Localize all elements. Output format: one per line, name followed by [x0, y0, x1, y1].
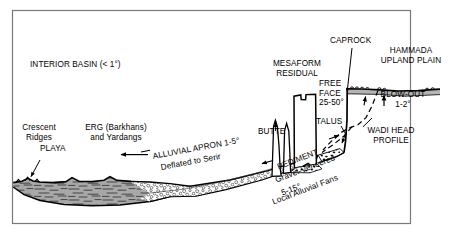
caprock-leader: [348, 48, 352, 88]
label-mesaform-line1: MESAFORM: [264, 59, 330, 69]
label-butte: BUTTE: [258, 127, 285, 137]
label-crescent-ridges-line1: Crescent: [12, 123, 66, 133]
crescent-ridges-leader: [31, 160, 40, 177]
blow-out-arrow-left: [364, 97, 366, 106]
label-hammada-line1: HAMMADA: [372, 46, 450, 56]
label-wadi-head-line2: PROFILE: [358, 136, 424, 146]
caprock-leader-dot: [346, 88, 349, 91]
label-free-face-line2: FACE: [319, 89, 341, 99]
label-blow-out-line1: BLOW-OUT: [372, 90, 434, 100]
label-interior-basin: INTERIOR BASIN (< 1°): [30, 60, 121, 70]
label-blow-out-slope: 1-2°: [372, 100, 434, 110]
desert-landform-diagram: INTERIOR BASIN (< 1°) Crescent Ridges PL…: [0, 0, 455, 234]
label-hammada-line2: UPLAND PLAIN: [366, 56, 455, 66]
label-free-face-slope: 25-50°: [319, 98, 344, 108]
label-wadi-head-line1: WADI HEAD: [358, 126, 424, 136]
label-mesaform-line2: RESIDUAL: [264, 69, 330, 79]
pediment-arrow-left: [262, 161, 272, 164]
label-erg-line2: and Yardangs: [70, 133, 162, 143]
label-caprock: CAPROCK: [330, 36, 371, 46]
pediment-arrow-right: [329, 135, 339, 139]
label-erg-line1: ERG (Barkhans): [70, 123, 162, 133]
alluvial-apron-tick: [141, 150, 150, 152]
label-free-face-line1: FREE: [319, 79, 341, 89]
label-playa: PLAYA: [40, 144, 66, 154]
label-talus: TALUS: [316, 117, 342, 127]
label-crescent-ridges-line2: Ridges: [12, 133, 66, 143]
cross-section-graphic: [0, 0, 455, 234]
